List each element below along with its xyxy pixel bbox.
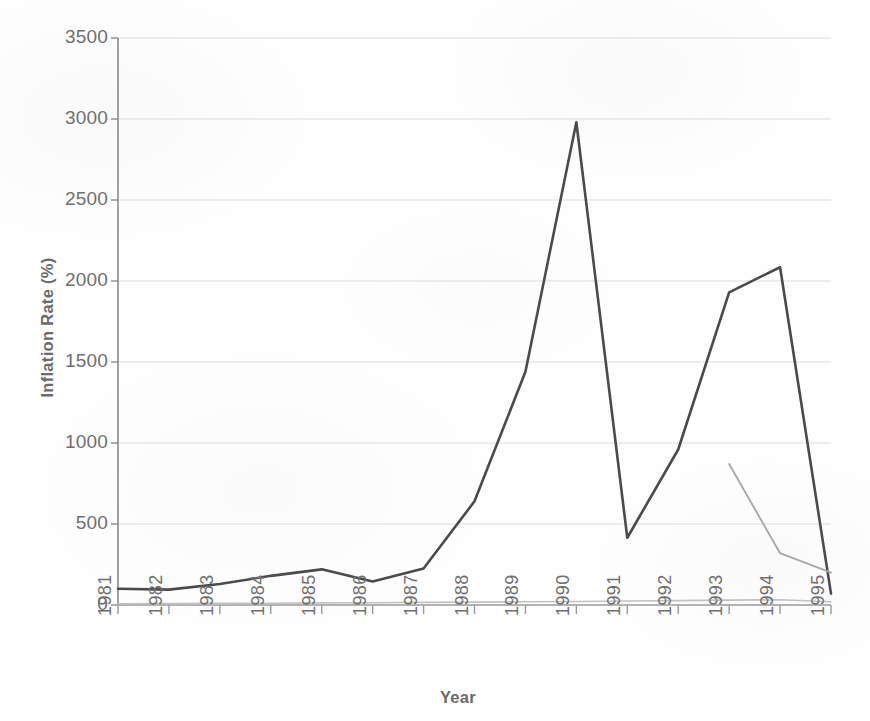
x-tick-label: 1995 <box>808 554 829 616</box>
x-axis-title: Year <box>0 688 870 707</box>
x-tick-label: 1984 <box>248 554 269 616</box>
x-tick-label: 1988 <box>452 554 473 616</box>
x-tick-label: 1982 <box>146 554 167 616</box>
x-tick-label: 1986 <box>350 554 371 616</box>
x-tick-label: 1992 <box>655 554 676 616</box>
x-tick-label: 1985 <box>299 554 320 616</box>
inflation-rate-chart: 0500100015002000250030003500 Inflation R… <box>0 0 870 721</box>
x-tick-label: 1993 <box>706 554 727 616</box>
x-tick-label: 1990 <box>553 554 574 616</box>
x-tick-label: 1991 <box>604 554 625 616</box>
x-tick-label: 1981 <box>95 554 116 616</box>
x-tick-label: 1987 <box>401 554 422 616</box>
x-tick-label: 1983 <box>197 554 218 616</box>
x-tick-label: 1994 <box>757 554 778 616</box>
x-axis-tick-labels: 1981198219831984198519861987198819891990… <box>0 0 870 721</box>
x-tick-label: 1989 <box>502 554 523 616</box>
